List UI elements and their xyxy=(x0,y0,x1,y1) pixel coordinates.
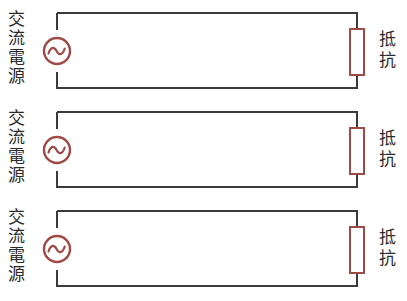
circuit-schematic-3 xyxy=(0,198,407,294)
resistor-icon xyxy=(350,29,364,75)
circuit-schematic-1 xyxy=(0,0,407,96)
wire-bottom-1 xyxy=(57,72,357,88)
resistor-icon xyxy=(350,227,364,273)
circuit-schematic-2 xyxy=(0,99,407,195)
circuit-diagram-1: 交 流 電 源 抵 抗 xyxy=(0,0,407,96)
resistor-icon xyxy=(350,128,364,174)
wire-top-3 xyxy=(57,211,357,227)
wire-bottom-3 xyxy=(57,270,357,286)
circuit-diagram-3: 交 流 電 源 抵 抗 xyxy=(0,198,407,294)
wire-top-2 xyxy=(57,112,357,128)
ac-source-icon xyxy=(44,236,70,262)
wire-top-1 xyxy=(57,13,357,29)
ac-source-label: 交 流 電 源 xyxy=(3,10,29,86)
wire-bottom-2 xyxy=(57,171,357,187)
ac-source-icon xyxy=(44,137,70,163)
ac-source-label: 交 流 電 源 xyxy=(3,208,29,284)
resistor-label: 抵 抗 xyxy=(374,29,400,71)
ac-source-icon xyxy=(44,38,70,64)
resistor-label: 抵 抗 xyxy=(374,128,400,170)
resistor-label: 抵 抗 xyxy=(374,227,400,269)
circuit-diagram-2: 交 流 電 源 抵 抗 xyxy=(0,99,407,195)
diagram-canvas: 交 流 電 源 抵 抗 交 流 電 源 抵 抗 xyxy=(0,0,407,301)
ac-source-label: 交 流 電 源 xyxy=(3,109,29,185)
